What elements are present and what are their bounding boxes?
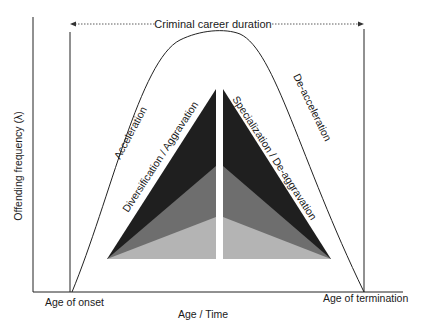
arrow-right-icon [358,22,364,27]
criminal-career-diagram: Criminal career duration Acceleration Di… [0,0,423,336]
x-axis-label: Age / Time [178,308,228,320]
age-of-onset-label: Age of onset [45,296,104,308]
career-duration-label: Criminal career duration [154,18,271,30]
y-axis-label: Offending frequency (λ) [12,111,24,221]
age-of-termination-label: Age of termination [323,292,408,304]
acceleration-label: Acceleration [111,104,149,161]
deacceleration-label: De-acceleration [291,72,334,143]
arrow-left-icon [70,22,76,27]
